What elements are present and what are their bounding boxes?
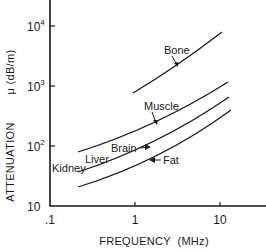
x-axis-title: FREQUENCY (MHz) <box>99 235 209 247</box>
y-axis-title-unit: μ (dB/m) <box>4 50 16 95</box>
y-axis-title: ATTENUATION μ (dB/m) <box>4 50 16 202</box>
y-tick-label-10e4: 104 <box>27 18 45 34</box>
x-tick-label-1: 1 <box>132 213 139 227</box>
bone-label: Bone <box>164 44 190 56</box>
brain-label: Brain <box>111 142 137 154</box>
y-tick-label-10e3: 103 <box>27 78 45 94</box>
fat-label: Fat <box>163 154 179 166</box>
y-axis-title-main: ATTENUATION <box>4 122 16 201</box>
liver-label: Liver <box>85 153 109 165</box>
muscle-label: Muscle <box>144 100 179 112</box>
y-tick-label-10: 10 <box>27 200 41 214</box>
x-tick-label-0.1: .1 <box>45 213 55 227</box>
x-tick-label-10: 10 <box>213 213 227 227</box>
attenuation-chart: 104 103 102 10 .1 1 10 FREQUENCY (MHz) A… <box>0 0 266 252</box>
kidney-label: Kidney <box>52 162 86 174</box>
y-tick-label-10e2: 102 <box>27 138 45 154</box>
brain-arrow-head <box>145 144 151 150</box>
